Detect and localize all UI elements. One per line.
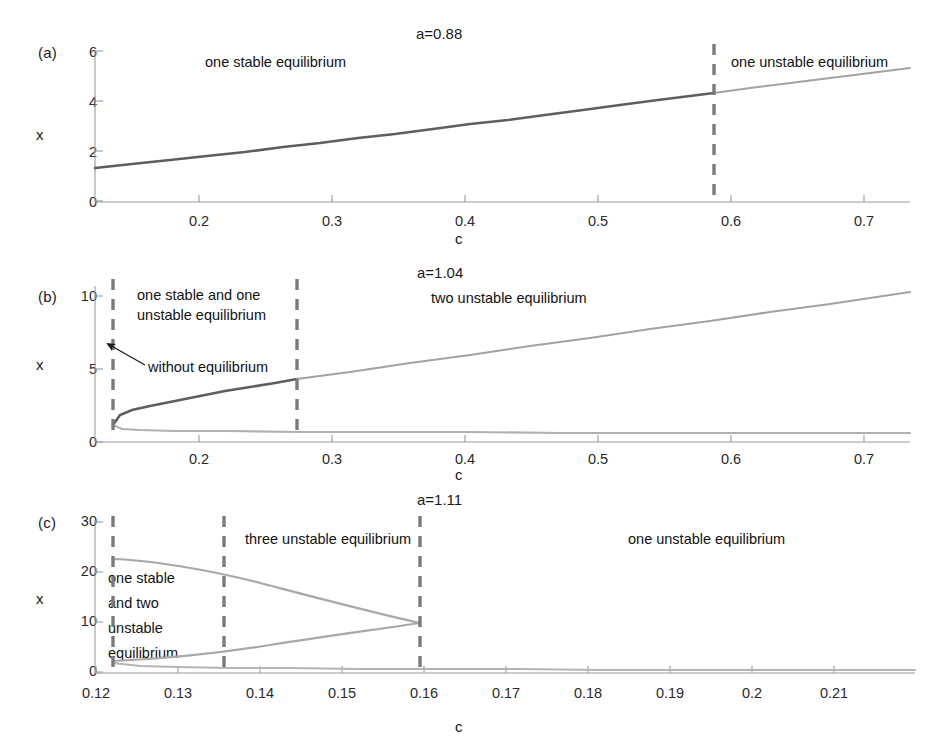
- panel-b-upper-branch-unstable: [297, 292, 910, 379]
- panel-c-plot: [0, 490, 935, 752]
- panel-b: (b) a=1.04 x c 10 5 0 0.2 0.3 0.4 0.5 0.…: [0, 252, 935, 490]
- panel-c-upper-fold-branch: [113, 559, 420, 623]
- panel-c-bottom-branch: [113, 663, 915, 670]
- panel-b-lower-branch: [113, 425, 910, 433]
- panel-a-y-ticks: [95, 51, 103, 201]
- panel-c: (c) a=1.11 x c 30 20 10 0 0.12 0.13 0.14…: [0, 490, 935, 752]
- panel-c-lower-fold-branch: [113, 623, 420, 661]
- panel-b-upper-branch-stable: [113, 379, 297, 425]
- panel-b-plot: [0, 252, 935, 490]
- panel-a: (a) a=0.88 x c 6 4 2 0 0.2 0.3 0.4 0.5 0…: [0, 0, 935, 252]
- panel-a-plot: [0, 0, 935, 252]
- panel-b-x-ticks: [199, 435, 864, 442]
- panel-a-branch-stable: [95, 93, 714, 168]
- panel-c-y-ticks: [95, 522, 103, 672]
- panel-b-y-ticks: [95, 296, 103, 442]
- panel-a-x-ticks: [199, 195, 864, 202]
- panel-a-branch-unstable: [714, 68, 910, 93]
- bifurcation-figure: (a) a=0.88 x c 6 4 2 0 0.2 0.3 0.4 0.5 0…: [0, 0, 935, 752]
